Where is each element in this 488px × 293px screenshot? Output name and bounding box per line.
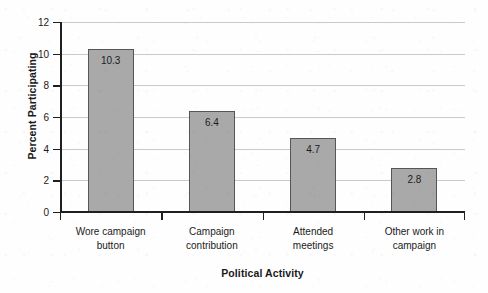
x-axis-category-label-line: Campaign [161,225,262,239]
bar-value-label: 4.7 [291,144,335,155]
y-axis-tick-label: 10 [23,48,49,59]
bar: 2.8 [391,168,437,212]
bar: 6.4 [189,111,235,212]
bar-value-label: 10.3 [89,55,133,66]
y-axis-tick [53,149,61,150]
gridline [60,22,465,23]
y-axis-tick-label: 0 [23,207,49,218]
x-axis-category-label-line: meetings [263,239,364,253]
x-axis-category-label-line: campaign [364,239,465,253]
bar: 4.7 [290,138,336,212]
x-axis-tick [464,213,465,220]
plot-area: 10.36.44.72.8 [60,22,465,212]
bar: 10.3 [88,49,134,212]
y-axis-tick [53,180,61,181]
y-axis-tick [53,117,61,118]
bar-value-label: 6.4 [190,117,234,128]
y-axis-tick-label: 2 [23,175,49,186]
y-axis-tick-label: 6 [23,112,49,123]
y-axis-tick-label: 4 [23,143,49,154]
x-axis-title: Political Activity [60,267,465,279]
bar-value-label: 2.8 [392,174,436,185]
y-axis-tick [53,85,61,86]
y-axis-tick [53,54,61,55]
y-axis-tick-label-group: 024681012 [19,0,49,293]
x-axis-tick [60,213,61,220]
x-axis-category-label-line: Wore campaign [60,225,161,239]
bar-chart: Percent Participating 024681012 10.36.44… [0,0,488,293]
x-axis-category-label: Other work incampaign [364,225,465,252]
x-axis-category-label-line: button [60,239,161,253]
x-axis-tick [263,213,264,220]
x-axis-category-label-line: Other work in [364,225,465,239]
x-axis-category-label-line: Attended [263,225,364,239]
x-axis-category-label: Attendedmeetings [263,225,364,252]
y-axis-tick-label: 8 [23,80,49,91]
x-axis-category-label-line: contribution [161,239,262,253]
y-axis-tick [53,22,61,23]
x-axis-tick [364,213,365,220]
y-axis-tick-label: 12 [23,17,49,28]
x-axis-category-label: Wore campaignbutton [60,225,161,252]
x-axis-category-label: Campaigncontribution [161,225,262,252]
x-axis-tick [161,213,162,220]
